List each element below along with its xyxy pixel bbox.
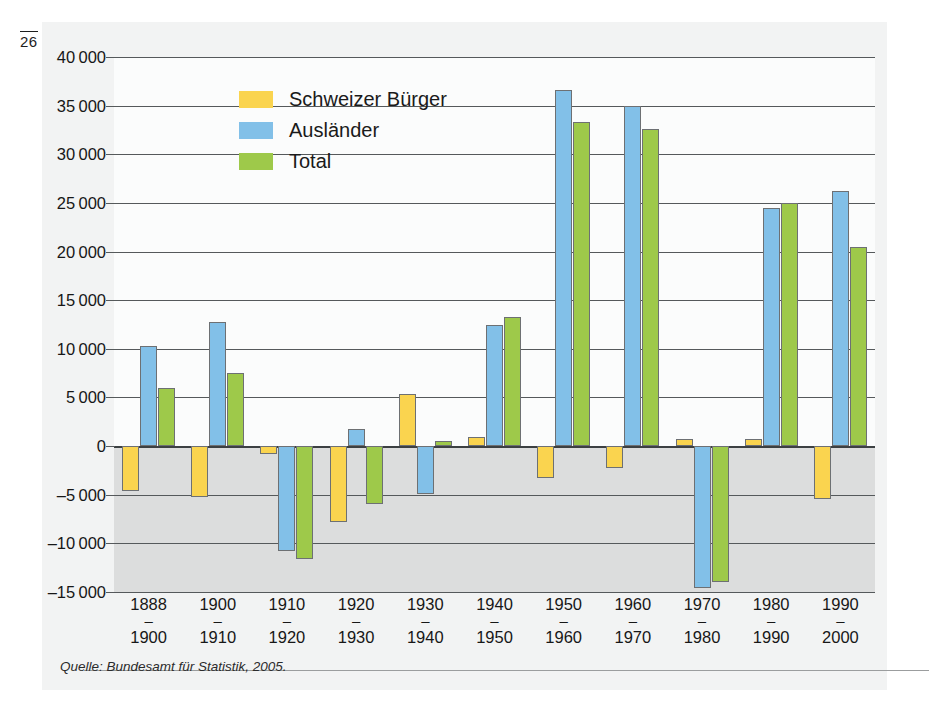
x-label-to: 1990 [737, 629, 806, 646]
bar [140, 346, 157, 446]
legend-label-schweizer: Schweizer Bürger [289, 88, 447, 111]
x-axis-group-label: 1940–1950 [460, 596, 529, 645]
gridline [114, 495, 875, 496]
x-axis-group-label: 1900–1910 [183, 596, 252, 645]
bar [209, 322, 226, 447]
y-axis-tick-label: 5 000 [18, 388, 106, 407]
x-label-from: 1970 [667, 596, 736, 613]
x-label-from: 1940 [460, 596, 529, 613]
x-label-from: 1920 [322, 596, 391, 613]
x-label-to: 2000 [806, 629, 875, 646]
x-label-from: 1990 [806, 596, 875, 613]
chart-legend: Schweizer Bürger Ausländer Total [239, 84, 447, 177]
x-label-dash: – [183, 614, 252, 628]
gridline [114, 106, 875, 107]
legend-item-total: Total [239, 146, 447, 177]
bar [158, 388, 175, 446]
x-axis-group-label: 1990–2000 [806, 596, 875, 645]
legend-label-auslaender: Ausländer [289, 119, 379, 142]
y-axis-tick-label: 25 000 [18, 193, 106, 212]
x-label-from: 1930 [391, 596, 460, 613]
legend-swatch-total [239, 153, 273, 170]
gridline [114, 252, 875, 253]
x-label-dash: – [598, 614, 667, 628]
y-axis-tick-label: 40 000 [18, 48, 106, 67]
x-label-from: 1910 [252, 596, 321, 613]
x-label-dash: – [114, 614, 183, 628]
x-label-dash: – [806, 614, 875, 628]
bar [814, 446, 831, 499]
x-label-dash: – [322, 614, 391, 628]
bar [694, 446, 711, 588]
x-label-to: 1960 [529, 629, 598, 646]
zero-line [114, 446, 875, 448]
x-axis-group-label: 1910–1920 [252, 596, 321, 645]
bar [227, 373, 244, 446]
x-label-to: 1970 [598, 629, 667, 646]
bar [122, 446, 139, 491]
bar [642, 129, 659, 446]
x-axis-group-label: 1970–1980 [667, 596, 736, 645]
bar [573, 122, 590, 446]
bar [712, 446, 729, 582]
y-axis-tick-label: 0 [18, 437, 106, 456]
y-axis: 40 00035 00030 00025 00020 00015 00010 0… [18, 57, 106, 592]
chart-panel: 40 00035 00030 00025 00020 00015 00010 0… [42, 22, 887, 690]
bar [260, 446, 277, 454]
gridline [114, 543, 875, 544]
bar [537, 446, 554, 478]
x-axis-group-label: 1930–1940 [391, 596, 460, 645]
x-label-from: 1980 [737, 596, 806, 613]
plot-area: 40 00035 00030 00025 00020 00015 00010 0… [114, 57, 875, 592]
bar [366, 446, 383, 504]
y-axis-tick-label: –15 000 [18, 583, 106, 602]
x-label-to: 1940 [391, 629, 460, 646]
x-axis-group-label: 1980–1990 [737, 596, 806, 645]
bar [278, 446, 295, 551]
legend-label-total: Total [289, 150, 331, 173]
bar [850, 247, 867, 446]
x-axis-group-label: 1960–1970 [598, 596, 667, 645]
source-note: Quelle: Bundesamt für Statistik, 2005. [60, 659, 287, 674]
bar [399, 394, 416, 447]
x-axis: 1888–19001900–19101910–19201920–19301930… [114, 596, 875, 656]
bar [832, 191, 849, 446]
bar [555, 90, 572, 446]
legend-swatch-schweizer [239, 91, 273, 108]
gridline [114, 154, 875, 155]
bar [504, 317, 521, 446]
bar [763, 208, 780, 446]
bar [468, 437, 485, 446]
x-label-dash: – [737, 614, 806, 628]
bar [348, 429, 365, 447]
x-label-from: 1950 [529, 596, 598, 613]
x-label-from: 1960 [598, 596, 667, 613]
gridline [114, 300, 875, 301]
bar [676, 439, 693, 446]
bar [330, 446, 347, 522]
y-axis-tick-label: 20 000 [18, 242, 106, 261]
y-axis-tick-label: 15 000 [18, 291, 106, 310]
bar [435, 441, 452, 446]
y-axis-tick-label: –5 000 [18, 485, 106, 504]
x-label-to: 1900 [114, 629, 183, 646]
x-label-to: 1950 [460, 629, 529, 646]
y-axis-tick-label: 10 000 [18, 339, 106, 358]
negative-value-zone [114, 447, 875, 592]
bar [745, 439, 762, 446]
x-label-to: 1930 [322, 629, 391, 646]
y-axis-tick-label: –10 000 [18, 534, 106, 553]
x-label-dash: – [529, 614, 598, 628]
gridline [114, 592, 875, 593]
x-label-dash: – [252, 614, 321, 628]
x-label-dash: – [667, 614, 736, 628]
x-axis-group-label: 1920–1930 [322, 596, 391, 645]
legend-swatch-auslaender [239, 122, 273, 139]
x-axis-group-label: 1950–1960 [529, 596, 598, 645]
bar [296, 446, 313, 559]
bar [606, 446, 623, 468]
x-axis-group-label: 1888–1900 [114, 596, 183, 645]
bar [191, 446, 208, 497]
x-label-to: 1920 [252, 629, 321, 646]
x-label-to: 1910 [183, 629, 252, 646]
